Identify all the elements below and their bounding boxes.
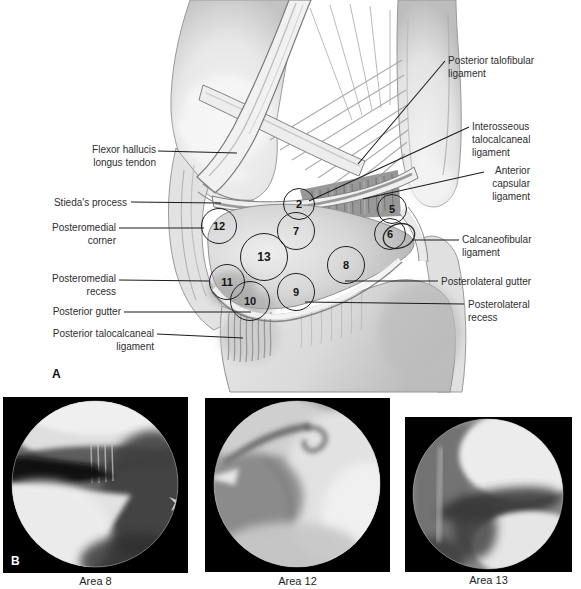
area-number: 8 <box>343 259 349 271</box>
area-number: 6 <box>387 228 393 240</box>
caption-area-8: Area 8 <box>3 575 188 587</box>
label-calcaneofibular-ligament: Calcaneofibular ligament <box>462 233 567 259</box>
label-posterolateral-gutter: Posterolateral gutter <box>441 275 561 288</box>
label-posterior-gutter: Posterior gutter <box>20 305 121 318</box>
bones-and-ligaments-drawing <box>169 0 466 392</box>
label-anterior-capsular-ligament: Anterior capsular ligament <box>478 164 530 203</box>
area-number: 10 <box>244 295 256 307</box>
label-posterolateral-recess: Posterolateral recess <box>468 298 568 324</box>
label-stiedas-process: Stieda's process <box>20 196 127 209</box>
area-marker-12: 12 <box>201 208 237 244</box>
area-marker-13: 13 <box>240 233 288 281</box>
area-number: 11 <box>221 276 233 288</box>
area-marker-6: 6 <box>374 218 406 250</box>
area-number: 5 <box>389 203 395 215</box>
area-number: 9 <box>293 286 299 298</box>
panel-b-label: B <box>11 554 20 568</box>
area-number: 2 <box>296 198 302 210</box>
label-posterior-talofibular-ligament: Posterior talofibular ligament <box>448 54 560 80</box>
caption-area-12: Area 12 <box>205 575 390 587</box>
arthroscopy-view-area-12 <box>205 398 390 572</box>
area-marker-11: 11 <box>209 264 245 300</box>
panel-a-label: A <box>52 367 61 381</box>
arthroscopy-view-area-8 <box>3 397 188 573</box>
area-marker-9: 9 <box>277 273 315 311</box>
arthroscopy-photo-area-13 <box>405 417 572 572</box>
arthroscopy-photo-area-12 <box>205 398 390 572</box>
area-number: 13 <box>257 250 270 264</box>
label-flexor-hallucis-longus-tendon: Flexor hallucis longus tendon <box>20 143 156 169</box>
label-posterior-talocalcaneal-ligament: Posterior talocalcaneal ligament <box>20 327 154 353</box>
label-interosseous-talocalcaneal-ligament: Interosseous talocalcaneal ligament <box>472 120 572 159</box>
arthroscopy-photo-area-8: B <box>3 397 188 573</box>
area-number: 7 <box>293 225 299 237</box>
label-posteromedial-corner: Posteromedial corner <box>20 221 116 247</box>
area-number: 12 <box>213 220 225 232</box>
caption-area-13: Area 13 <box>405 574 572 586</box>
area-marker-8: 8 <box>327 246 365 284</box>
figure-posterior-ankle: Flexor hallucis longus tendon Stieda's p… <box>0 0 581 589</box>
arthroscopy-view-area-13 <box>405 417 572 572</box>
label-posteromedial-recess: Posteromedial recess <box>20 272 116 298</box>
